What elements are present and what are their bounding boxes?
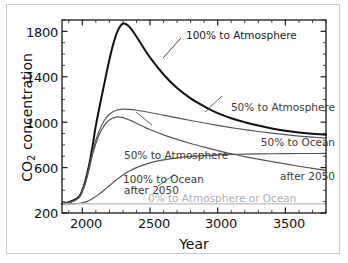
y-axis-title-suffix: concentration [19, 53, 35, 154]
y-axis-title-subscript: 2 [26, 155, 37, 161]
annotation-100-atmosphere: 100% to Atmosphere [186, 30, 297, 42]
chart-figure: 1800 1400 1000 600 200 2000 2500 3000 35… [0, 0, 348, 263]
annotation-0-atmosphere-or-ocean: 0% to Atmosphere or Ocean [148, 193, 296, 205]
annotation-50-50-line1: 50% to Atmosphere [225, 102, 335, 114]
annotation-100-ocean: 100% to Ocean [123, 174, 204, 186]
annotation-50-50-after-2050: 50% to Atmosphere 50% to Ocean after 205… [225, 79, 335, 206]
annotation-50-50-line2: 50% to Ocean [225, 137, 335, 149]
annotation-50-atm-line1: 50% to Atmosphere [124, 150, 228, 162]
annotation-50-50-line3: after 2050 [225, 171, 335, 183]
ytick-label-200: 200 [18, 206, 58, 221]
y-axis-title-prefix: CO [19, 161, 35, 182]
x-axis-title: Year [62, 236, 326, 252]
xtick-label-3500: 3500 [265, 216, 313, 231]
y-axis-title: CO2 concentration [19, 27, 38, 207]
xtick-label-2000: 2000 [62, 216, 110, 231]
